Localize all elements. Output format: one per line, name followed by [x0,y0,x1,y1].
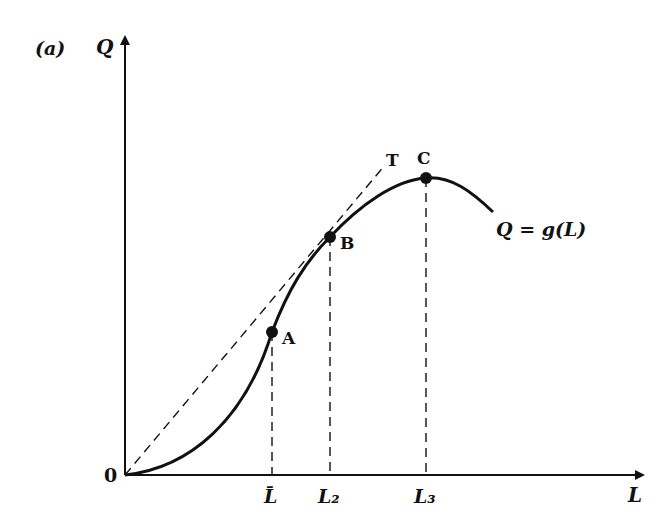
point-a-label: A [281,328,296,348]
x-tick-l3: L₃ [413,485,436,507]
point-b [324,231,336,243]
x-tick-lbar: L̄ [263,485,277,507]
point-b-label: B [340,233,354,253]
origin-label: 0 [104,464,117,486]
tangent-label: T [386,150,399,170]
point-c [420,172,432,184]
panel-label: (a) [35,37,65,59]
point-a [266,326,278,338]
tangent-ray-t [125,165,385,475]
x-tick-l2: L₂ [317,485,340,507]
production-curve [125,178,493,475]
production-function-diagram: (a) Q L 0 A B C T Q = g(L) L̄ L₂ L₃ [0,0,671,527]
curve-label: Q = g(L) [496,218,586,240]
point-c-label: C [417,148,431,168]
y-axis-label: Q [96,35,114,59]
x-axis-label: L [627,483,642,507]
